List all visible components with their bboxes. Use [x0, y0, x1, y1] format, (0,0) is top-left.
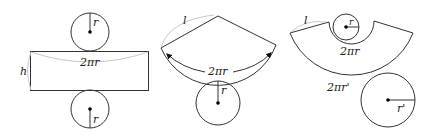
frustum-large-center: [386, 98, 390, 102]
frustum-inner-arc-label: 2πr: [339, 45, 360, 58]
nets-diagram: r 2πr h r l 2πr r l r 2πr 2πr': [0, 0, 438, 139]
cone-slant-label: l: [183, 14, 187, 27]
cone-arc-arrow-right: [233, 53, 271, 72]
cylinder-height-label: h: [20, 65, 27, 78]
frustum-small-center: [344, 25, 348, 29]
cylinder-bottom-radius-label: r: [93, 113, 99, 126]
cylinder-top-center: [88, 30, 92, 34]
cone-slant-arc: [161, 15, 214, 47]
cylinder-net: r 2πr h r: [20, 13, 149, 128]
frustum-slant-arc: [291, 21, 326, 32]
cylinder-bottom-center: [88, 107, 92, 111]
frustum-net: l r 2πr 2πr' r': [290, 14, 415, 127]
cone-base-center: [216, 101, 220, 105]
cone-arc-arrow-left: [167, 54, 205, 72]
frustum-small-radius-label: r: [349, 17, 354, 27]
cone-base-radius-label: r: [221, 84, 227, 97]
cone-arc-label: 2πr: [207, 65, 228, 78]
frustum-slant-label: l: [304, 14, 308, 27]
frustum-large-radius-label: r': [397, 102, 405, 115]
cone-net: l 2πr r: [161, 14, 276, 125]
cylinder-top-radius-label: r: [93, 16, 99, 29]
cylinder-length-label: 2πr: [79, 56, 100, 69]
frustum-outer-arc-label: 2πr': [326, 81, 350, 94]
